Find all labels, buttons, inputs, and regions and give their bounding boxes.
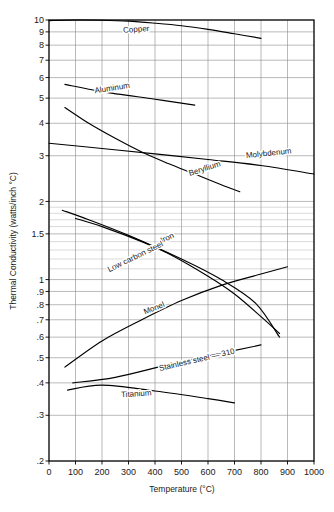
x-tick-label: 1000 bbox=[304, 467, 324, 477]
x-tick-label: 200 bbox=[94, 467, 109, 477]
x-tick-label: 700 bbox=[227, 467, 242, 477]
x-tick-label: 100 bbox=[68, 467, 83, 477]
y-tick-label: 9 bbox=[39, 27, 44, 37]
y-tick-label: .7 bbox=[36, 315, 44, 325]
y-tick-label: 4 bbox=[39, 118, 44, 128]
x-axis-title: Temperature (°C) bbox=[149, 484, 214, 494]
x-tick-label: 900 bbox=[280, 467, 295, 477]
y-tick-label: 1 bbox=[39, 275, 44, 285]
y-tick-label: 10 bbox=[34, 15, 44, 25]
y-tick-label: .9 bbox=[36, 287, 44, 297]
curve-monel bbox=[65, 267, 288, 367]
y-tick-label: .3 bbox=[36, 410, 44, 420]
curve-label-group: TitaniumTitanium bbox=[121, 388, 152, 399]
y-tick-label: 7 bbox=[39, 55, 44, 65]
curve-label-molybdenum: Molybdenum bbox=[245, 146, 292, 160]
y-axis-title: Thermal Conductivity (watts/inch °C) bbox=[8, 172, 18, 310]
y-tick-label: .5 bbox=[36, 353, 44, 363]
y-tick-label: 5 bbox=[39, 93, 44, 103]
y-tick-label: .8 bbox=[36, 300, 44, 310]
curve-iron bbox=[62, 210, 279, 333]
x-tick-label: 500 bbox=[174, 467, 189, 477]
y-tick-label: 6 bbox=[39, 73, 44, 83]
x-tick-label: 300 bbox=[121, 467, 136, 477]
y-tick-label: 8 bbox=[39, 40, 44, 50]
y-axis-tick-labels: 10987654321.51.9.8.7.6.5.4.3.2 bbox=[31, 15, 44, 466]
thermal-conductivity-chart: 01002003004005006007008009001000 1098765… bbox=[0, 0, 334, 512]
curve-label-group: Stainless steel — 310Stainless steel — 3… bbox=[158, 347, 236, 373]
x-axis-tick-labels: 01002003004005006007008009001000 bbox=[46, 467, 324, 477]
x-tick-label: 400 bbox=[147, 467, 162, 477]
x-tick-label: 600 bbox=[200, 467, 215, 477]
x-tick-label: 800 bbox=[253, 467, 268, 477]
y-tick-label: .2 bbox=[36, 456, 44, 466]
axis-frame bbox=[46, 20, 315, 465]
y-tick-label: 1.5 bbox=[31, 229, 44, 239]
curve-label-stainless-steel-310: Stainless steel — 310 bbox=[158, 347, 236, 373]
curve-label-group: CopperCopper bbox=[123, 24, 150, 35]
y-tick-label: .4 bbox=[36, 378, 44, 388]
chart-canvas: 01002003004005006007008009001000 1098765… bbox=[0, 0, 334, 512]
curve-label-copper: Copper bbox=[123, 24, 150, 35]
curve-label-group: BerylliumBeryllium bbox=[188, 159, 222, 178]
curve-label-titanium: Titanium bbox=[121, 388, 152, 399]
curve-beryllium bbox=[65, 108, 240, 192]
y-tick-label: 2 bbox=[39, 197, 44, 207]
curve-label-beryllium: Beryllium bbox=[188, 159, 222, 178]
y-tick-label: 3 bbox=[39, 151, 44, 161]
curve-labels: CopperCopperAluminumAluminumBerylliumBer… bbox=[94, 24, 292, 399]
curve-label-group: MolybdenumMolybdenum bbox=[245, 146, 292, 160]
x-tick-label: 0 bbox=[46, 467, 51, 477]
y-tick-label: .6 bbox=[36, 332, 44, 342]
